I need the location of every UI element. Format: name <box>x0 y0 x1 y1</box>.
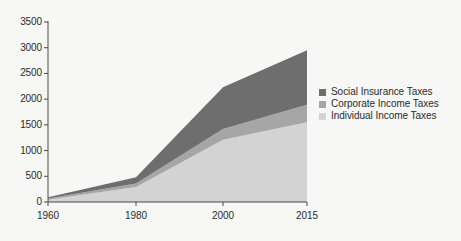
legend-item: Individual Income Taxes <box>319 111 439 121</box>
legend-item-label: Individual Income Taxes <box>331 111 436 121</box>
legend-item-label: Social Insurance Taxes <box>331 87 433 97</box>
legend-item: Corporate Income Taxes <box>319 99 439 109</box>
chart-legend: Social Insurance TaxesCorporate Income T… <box>319 87 439 121</box>
legend-item: Social Insurance Taxes <box>319 87 439 97</box>
stacked-area-chart-screenshot: 0500100015002000250030003500 19601980200… <box>0 0 461 241</box>
legend-swatch-icon <box>319 101 326 108</box>
legend-item-label: Corporate Income Taxes <box>331 99 439 109</box>
legend-swatch-icon <box>319 89 326 96</box>
x-axis-tick-label: 2000 <box>212 211 234 221</box>
x-axis-tick-label: 1960 <box>37 211 59 221</box>
x-axis-tick-label: 1980 <box>125 211 147 221</box>
x-axis-tick-label: 2015 <box>296 211 318 221</box>
legend-swatch-icon <box>319 113 326 120</box>
